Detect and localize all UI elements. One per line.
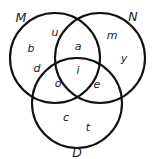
- region-label-a: a: [75, 41, 82, 52]
- region-label-d: d: [34, 63, 41, 74]
- venn-diagram: M N D u b d m y a i o e c t: [0, 0, 152, 159]
- region-label-c: c: [63, 112, 69, 123]
- region-label-y: y: [121, 53, 128, 64]
- region-label-o: o: [55, 78, 62, 89]
- region-label-u: u: [52, 27, 59, 38]
- region-label-e: e: [94, 79, 101, 90]
- region-label-m: m: [107, 30, 118, 41]
- region-label-i: i: [76, 65, 79, 76]
- set-label-n: N: [128, 11, 137, 24]
- set-label-d: D: [72, 147, 82, 159]
- set-label-m: M: [16, 12, 27, 25]
- region-label-t: t: [86, 122, 90, 133]
- region-label-b: b: [28, 43, 35, 54]
